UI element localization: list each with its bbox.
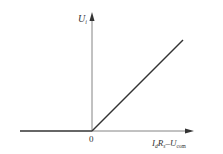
y-axis-label: Ui (78, 13, 87, 25)
origin-label: 0 (89, 134, 94, 144)
x-axis-arrow-icon (185, 129, 194, 134)
x-axis-label: IdRs–Ucom (151, 138, 187, 149)
characteristic-slope-segment (92, 40, 183, 131)
transfer-characteristic-diagram: Ui 0 IdRs–Ucom (0, 0, 223, 154)
y-axis-arrow-icon (90, 12, 95, 21)
